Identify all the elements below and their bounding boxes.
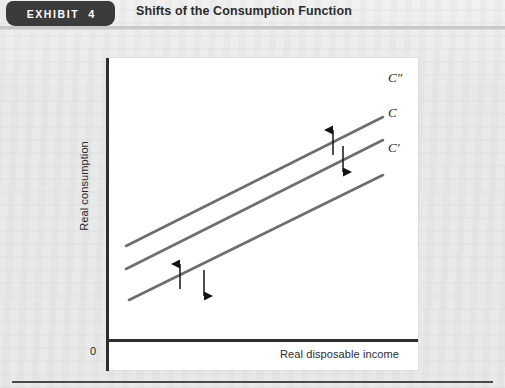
exhibit-number: 4 bbox=[88, 8, 94, 20]
curve-c-double-prime bbox=[126, 117, 383, 246]
exhibit-page: EXHIBIT 4 Shifts of the Consumption Func… bbox=[0, 0, 505, 388]
curve-label-c: C bbox=[388, 105, 397, 121]
exhibit-title: Shifts of the Consumption Function bbox=[136, 4, 352, 18]
curve-c-prime bbox=[129, 175, 383, 300]
exhibit-header: EXHIBIT 4 Shifts of the Consumption Func… bbox=[0, 0, 505, 26]
chart-figure: Real consumption Real disposable income … bbox=[0, 30, 505, 382]
curve-c bbox=[126, 140, 383, 269]
exhibit-badge-inner: EXHIBIT 4 bbox=[27, 8, 95, 20]
exhibit-badge: EXHIBIT 4 bbox=[6, 1, 115, 26]
footer-divider bbox=[12, 381, 493, 383]
chart-lines-svg bbox=[0, 30, 505, 382]
curve-label-c-double-prime: C″ bbox=[388, 70, 402, 86]
curve-label-c-prime: C′ bbox=[388, 140, 400, 156]
exhibit-label: EXHIBIT bbox=[27, 8, 80, 20]
